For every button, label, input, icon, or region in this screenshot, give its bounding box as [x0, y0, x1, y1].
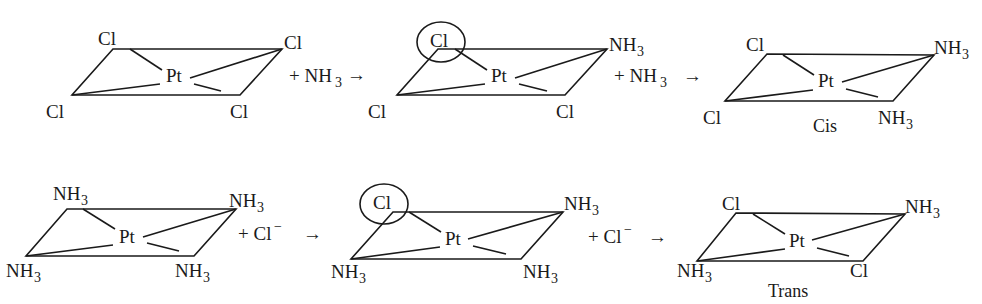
bond-top-right [812, 214, 905, 240]
bond-bottom-right [147, 243, 179, 251]
pt-label: Pt [818, 70, 835, 91]
complex-c1: Pt Cl Cl Cl Cl [46, 28, 302, 122]
svg-text:+ NH: + NH [614, 65, 657, 86]
bond-bottom-right [194, 84, 221, 91]
svg-text:3: 3 [335, 75, 342, 90]
bond-bottom-right [846, 89, 878, 97]
svg-text:3: 3 [551, 271, 558, 286]
complex-c2: Pt Cl NH 3 Cl Cl [368, 22, 644, 122]
reagent-cl-2: + Cl − → [588, 222, 667, 247]
ligand-bottom-left: NH [331, 261, 359, 282]
ligand-bottom-left: NH [6, 260, 34, 281]
ligand-top-right: NH [564, 193, 592, 214]
reaction-arrow: → [648, 226, 667, 247]
reaction-arrow: → [303, 223, 322, 244]
ligand-bottom-right: Cl [556, 101, 574, 122]
svg-text:+ NH: + NH [289, 65, 332, 86]
ligand-top-left: Cl [98, 28, 116, 49]
svg-text:3: 3 [660, 75, 667, 90]
pt-label: Pt [789, 230, 806, 251]
svg-text:3: 3 [705, 270, 712, 285]
ligand-bottom-right: NH [523, 261, 551, 282]
ligand-top-left: Cl [746, 34, 764, 55]
svg-text:−: − [624, 222, 632, 237]
reaction-arrow: → [347, 64, 366, 85]
ligand-top-right: NH [229, 190, 257, 211]
svg-text:3: 3 [933, 206, 940, 221]
ligand-top-right: Cl [284, 32, 302, 53]
reaction-diagram: Pt Cl Cl Cl Cl + NH 3 → Pt Cl NH 3 Cl Cl… [0, 0, 982, 304]
bond-bottom-left [697, 249, 785, 261]
bond-top-left [783, 55, 814, 75]
pt-label: Pt [445, 228, 462, 249]
bond-top-left [83, 209, 115, 229]
complex-c3-cis: Pt Cl NH 3 Cl NH 3 Cis [703, 34, 969, 136]
svg-text:3: 3 [81, 193, 88, 208]
pt-label: Pt [491, 65, 508, 86]
ligand-bottom-left: Cl [46, 101, 64, 122]
reaction-arrow: → [683, 65, 702, 86]
bond-bottom-left [397, 84, 485, 95]
ligand-bottom-right: Cl [850, 260, 868, 281]
pt-label: Pt [119, 226, 136, 247]
ligand-top-right: NH [934, 37, 962, 58]
bond-bottom-right [817, 248, 849, 256]
complex-t3-trans: Pt Cl NH 3 NH 3 Cl Trans [677, 193, 940, 301]
bond-bottom-left [351, 247, 440, 259]
svg-text:3: 3 [592, 203, 599, 218]
svg-text:+ Cl: + Cl [588, 226, 621, 247]
bond-top-left [130, 49, 162, 70]
bond-top-right [842, 55, 934, 82]
bond-top-left [753, 214, 785, 234]
bond-bottom-right [519, 84, 547, 91]
svg-text:3: 3 [637, 44, 644, 59]
pt-label: Pt [166, 65, 183, 86]
svg-text:3: 3 [257, 200, 264, 215]
reagent-cl-1: + Cl − → [238, 219, 322, 244]
svg-text:3: 3 [359, 271, 366, 286]
ligand-top-right: NH [609, 34, 637, 55]
ligand-bottom-left: Cl [703, 107, 721, 128]
ligand-bottom-left: Cl [368, 101, 386, 122]
bond-bottom-right [473, 246, 506, 254]
bond-bottom-left [725, 90, 813, 101]
complex-t2: Pt Cl NH 3 NH 3 NH 3 [331, 184, 599, 286]
ligand-bottom-right: Cl [230, 101, 248, 122]
bond-bottom-left [26, 245, 113, 256]
bond-top-left [455, 49, 487, 70]
complex-t1: Pt NH 3 NH 3 NH 3 NH 3 [6, 183, 264, 285]
ligand-top-right: NH [905, 196, 933, 217]
ligand-top-left: Cl [373, 192, 391, 213]
ligand-bottom-left: NH [677, 260, 705, 281]
svg-text:−: − [274, 219, 282, 234]
ligand-top-left: Cl [722, 193, 740, 214]
ligand-top-left: NH [53, 183, 81, 204]
svg-text:3: 3 [906, 117, 913, 132]
svg-text:+ Cl: + Cl [238, 223, 271, 244]
reagent-nh3-1: + NH 3 → [289, 64, 366, 90]
svg-text:3: 3 [203, 270, 210, 285]
bond-top-left [409, 212, 441, 232]
bond-top-right [468, 212, 563, 239]
isomer-caption-trans: Trans [768, 281, 808, 301]
isomer-caption-cis: Cis [813, 116, 837, 136]
ligand-bottom-right: NH [175, 260, 203, 281]
bond-top-right [143, 209, 236, 237]
ligand-bottom-right: NH [878, 107, 906, 128]
bond-bottom-left [72, 84, 160, 95]
svg-text:3: 3 [962, 47, 969, 62]
svg-text:3: 3 [34, 270, 41, 285]
reagent-nh3-2: + NH 3 → [614, 65, 702, 90]
ligand-top-left: Cl [430, 30, 448, 51]
